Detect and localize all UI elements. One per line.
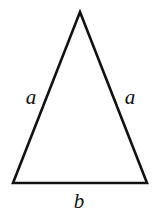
side-label-right-leg: a	[125, 87, 136, 108]
side-label-left-leg: a	[26, 87, 37, 108]
side-label-base: b	[74, 191, 85, 212]
triangle-figure: a a b	[0, 0, 157, 217]
triangle-shape	[0, 0, 157, 217]
